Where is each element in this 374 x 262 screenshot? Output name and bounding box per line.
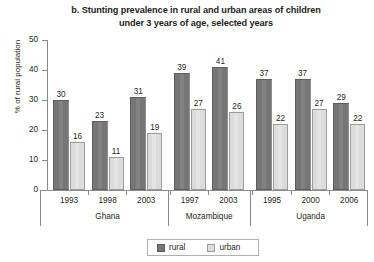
y-axis-tick-label: 0 xyxy=(18,186,38,194)
x-axis-tick xyxy=(88,191,89,195)
bar-urban-ghana-1993 xyxy=(70,142,85,190)
x-axis-tick xyxy=(126,191,127,195)
legend-swatch-urban-icon xyxy=(207,244,215,252)
bar-value-label: 16 xyxy=(68,132,88,141)
x-axis-tick xyxy=(329,191,330,195)
bar-urban-ghana-1998 xyxy=(109,157,124,190)
chart-title-line-2: under 3 years of age, selected years xyxy=(36,17,356,30)
x-axis-tick xyxy=(291,191,292,195)
axis-left-border xyxy=(40,191,41,226)
group-separator xyxy=(168,191,169,226)
chart-title-line-1: b. Stunting prevalence in rural and urba… xyxy=(36,4,356,17)
plot-area: 30162311311939274126372237272922 xyxy=(48,40,367,190)
bar-value-label: 26 xyxy=(227,102,247,111)
bar-value-label: 37 xyxy=(254,69,274,78)
bar-value-label: 27 xyxy=(188,99,208,108)
bar-rural-mozambique-2003 xyxy=(212,67,228,190)
legend-swatch-rural-icon xyxy=(157,244,165,252)
y-axis-tick-label: 30 xyxy=(18,96,38,104)
y-axis-tick-label: 50 xyxy=(18,36,38,44)
chart-legend: rural urban xyxy=(147,239,259,256)
y-axis-tick xyxy=(42,190,48,191)
group-separator xyxy=(250,191,251,226)
x-axis-baseline xyxy=(40,190,368,191)
x-axis-year-label: 1995 xyxy=(255,196,289,206)
x-axis-year-label: 2000 xyxy=(294,196,328,206)
bar-urban-uganda-2006 xyxy=(350,124,365,190)
chart-title: b. Stunting prevalence in rural and urba… xyxy=(36,4,356,29)
legend-label-rural: rural xyxy=(169,243,185,252)
bar-value-label: 30 xyxy=(51,90,71,99)
bar-value-label: 39 xyxy=(172,63,192,72)
bar-urban-mozambique-2003 xyxy=(229,112,244,190)
bar-value-label: 31 xyxy=(128,87,148,96)
bar-rural-uganda-2000 xyxy=(295,79,311,190)
bar-rural-mozambique-1997 xyxy=(174,73,190,190)
bar-value-label: 23 xyxy=(90,111,110,120)
x-axis-year-label: 2006 xyxy=(332,196,366,206)
group-label-ghana: Ghana xyxy=(53,212,162,222)
y-axis-tick-label: 20 xyxy=(18,126,38,134)
bar-urban-ghana-2003 xyxy=(147,133,162,190)
bar-value-label: 29 xyxy=(331,93,351,102)
legend-item-rural[interactable]: rural xyxy=(157,243,185,252)
bar-value-label: 11 xyxy=(106,147,126,156)
bar-value-label: 27 xyxy=(309,99,329,108)
group-label-mozambique: Mozambique xyxy=(174,212,245,222)
y-axis-tick-label: 40 xyxy=(18,66,38,74)
bar-value-label: 19 xyxy=(145,123,165,132)
x-axis-year-label: 1997 xyxy=(173,196,207,206)
bar-rural-ghana-2003 xyxy=(130,97,146,190)
x-axis-year-label: 1998 xyxy=(91,196,125,206)
bar-value-label: 37 xyxy=(293,69,313,78)
y-axis-label: % of rural population xyxy=(13,12,22,142)
x-axis-year-label: 1993 xyxy=(52,196,86,206)
legend-item-urban[interactable]: urban xyxy=(207,243,240,252)
group-label-uganda: Uganda xyxy=(256,212,365,222)
x-axis-tick xyxy=(208,191,209,195)
legend-label-urban: urban xyxy=(219,243,240,252)
bar-rural-uganda-1995 xyxy=(256,79,272,190)
bar-rural-ghana-1993 xyxy=(53,100,69,190)
bar-urban-uganda-2000 xyxy=(312,109,327,190)
y-axis-tick-label: 10 xyxy=(18,156,38,164)
bar-value-label: 41 xyxy=(210,57,230,66)
bar-urban-mozambique-1997 xyxy=(191,109,206,190)
bar-value-label: 22 xyxy=(271,114,291,123)
x-axis-tick xyxy=(252,191,253,195)
x-axis-year-label: 2003 xyxy=(129,196,163,206)
bar-urban-uganda-1995 xyxy=(273,124,288,190)
bar-value-label: 22 xyxy=(348,114,368,123)
axis-right-border xyxy=(367,191,368,226)
x-axis-year-label: 2003 xyxy=(211,196,245,206)
x-axis-tick xyxy=(170,191,171,195)
